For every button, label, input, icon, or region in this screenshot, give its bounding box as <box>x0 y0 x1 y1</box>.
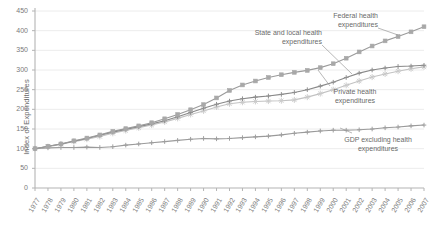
y-tick-250: 250 <box>2 86 28 93</box>
annotation-federal-health: Federal health expenditures <box>300 12 378 30</box>
y-tick-0: 0 <box>2 184 28 191</box>
annotation-private-line2: expenditures <box>316 97 394 106</box>
y-tick-350: 350 <box>2 46 28 53</box>
annotation-state-local-health: State and local health expenditures <box>218 29 322 47</box>
annotation-gdp-line1: GDP excluding health <box>330 136 426 145</box>
annotation-gdp-excluding-health: GDP excluding health expenditures <box>330 136 426 154</box>
y-tick-450: 450 <box>2 7 28 14</box>
annotation-federal-line1: Federal health <box>300 12 378 21</box>
y-tick-400: 400 <box>2 27 28 34</box>
y-tick-150: 150 <box>2 125 28 132</box>
y-tick-200: 200 <box>2 105 28 112</box>
y-tick-50: 50 <box>2 164 28 171</box>
annotation-gdp-line2: expenditures <box>330 145 426 154</box>
annotation-private-health: Private health expenditures <box>316 88 394 106</box>
y-tick-100: 100 <box>2 145 28 152</box>
y-tick-300: 300 <box>2 66 28 73</box>
annotation-state-line1: State and local health <box>218 29 322 38</box>
chart-container: Index of Expenditures 450400350300250200… <box>0 0 432 234</box>
annotation-state-line2: expenditures <box>218 38 322 47</box>
annotation-private-line1: Private health <box>316 88 394 97</box>
